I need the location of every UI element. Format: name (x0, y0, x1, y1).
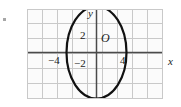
origin-label: O (101, 32, 110, 44)
stray-mark (3, 18, 6, 21)
y-tick-label-neg2: −2 (74, 58, 86, 69)
y-tick-label-2: 2 (80, 30, 86, 41)
x-tick-label-4: 4 (120, 55, 126, 66)
figure-ellipse-graph: y x O −4 4 2 −2 (0, 0, 181, 107)
x-axis-label: x (168, 56, 173, 67)
y-axis-label: y (88, 8, 93, 19)
x-tick-label-neg4: −4 (48, 55, 60, 66)
